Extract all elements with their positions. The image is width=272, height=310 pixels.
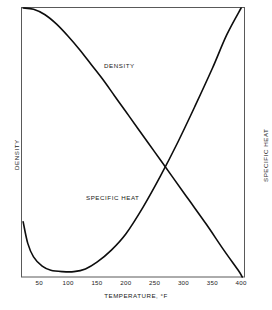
plot-frame	[22, 8, 245, 278]
chart-plot-area	[0, 0, 272, 310]
y-axis-left-title: DENSITY	[13, 139, 20, 170]
density-series-label: DENSITY	[104, 62, 135, 69]
x-tick-label: 250	[149, 279, 160, 286]
x-tick-label: 300	[178, 279, 189, 286]
x-tick-label: 400	[235, 279, 246, 286]
x-tick-label: 350	[207, 279, 218, 286]
specific-heat-series-label: SPECIFIC HEAT	[86, 194, 139, 201]
x-axis-title: TEMPERATURE, °F	[0, 292, 272, 299]
x-tick-label: 200	[120, 279, 131, 286]
y-axis-right-title: SPECIFIC HEAT	[262, 129, 269, 182]
x-tick-label: 100	[62, 279, 73, 286]
x-tick-label: 150	[91, 279, 102, 286]
x-tick-label: 50	[36, 279, 43, 286]
chart-figure: DENSITY SPECIFIC HEAT 50 100 150 200 250…	[0, 0, 272, 310]
